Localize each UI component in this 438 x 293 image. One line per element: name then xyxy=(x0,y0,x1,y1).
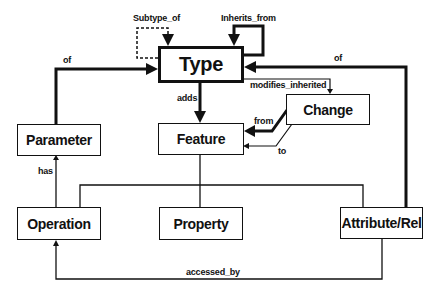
label-subtype-of: Subtype_of xyxy=(133,13,180,23)
label-parameter-of: of xyxy=(63,55,71,65)
label-attribute-of: of xyxy=(334,53,342,63)
node-parameter: Parameter xyxy=(17,124,101,156)
label-has: has xyxy=(38,166,53,176)
label-inherits-from: Inherits_from xyxy=(221,13,276,23)
label-from: from xyxy=(254,116,273,126)
label-adds: adds xyxy=(177,93,197,103)
edge-feature-specializations xyxy=(80,154,363,207)
label-accessed-by: accessed_by xyxy=(186,267,240,277)
node-type: Type xyxy=(158,46,244,83)
label-to: to xyxy=(278,146,286,156)
label-modifies-inherited: modifies_inherited xyxy=(250,80,326,90)
node-change: Change xyxy=(286,94,370,125)
node-property: Property xyxy=(159,207,243,240)
edge-has xyxy=(53,155,59,207)
node-feature: Feature xyxy=(158,123,244,155)
node-attribute-rel: Attribute/Rel xyxy=(340,207,423,239)
edge-parameter-of-type xyxy=(56,63,158,124)
node-operation: Operation xyxy=(17,207,101,240)
